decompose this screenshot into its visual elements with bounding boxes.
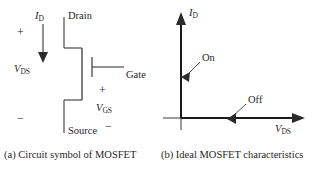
drain-terminal-label: Drain	[68, 11, 92, 22]
panel-b-caption: (b) Ideal MOSFET characteristics	[161, 150, 303, 161]
x-axis-arrowhead	[292, 113, 305, 123]
x-axis-label: VDS	[275, 124, 291, 135]
off-annotation-arrowhead	[227, 113, 236, 124]
x-axis-label-subscript: DS	[281, 127, 291, 136]
drain-current-subscript: D	[39, 14, 44, 23]
source-terminal-label: Source	[68, 126, 97, 137]
y-axis-label: ID	[189, 8, 198, 19]
vds-plus-sign: +	[17, 26, 24, 38]
mosfet-figure: ID Drain Source Gate VDS VGS + − + − (a)…	[0, 0, 318, 178]
panel-circuit-symbol: ID Drain Source Gate VDS VGS + − + − (a)…	[0, 0, 159, 178]
vds-minus-sign: −	[17, 112, 24, 124]
panel-ideal-characteristics: ID VDS On Off (b) Ideal MOSFET character…	[159, 0, 318, 178]
on-state-label: On	[202, 53, 215, 64]
panel-a-caption: (a) Circuit symbol of MOSFET	[4, 150, 136, 161]
off-state-label: Off	[248, 95, 262, 106]
y-axis-arrowhead	[176, 12, 186, 25]
vgs-minus-sign: −	[105, 120, 112, 132]
vgs-subscript: GS	[102, 106, 112, 115]
vds-label: VDS	[14, 64, 30, 75]
vgs-label: VGS	[96, 103, 112, 114]
drain-current-arrow-head	[38, 52, 48, 63]
gate-terminal-label: Gate	[126, 70, 146, 81]
on-annotation-arrowhead	[181, 72, 190, 82]
vgs-plus-sign: +	[99, 84, 106, 96]
vds-subscript: DS	[20, 67, 30, 76]
drain-current-label: ID	[35, 11, 44, 22]
y-axis-label-subscript: D	[193, 11, 198, 20]
